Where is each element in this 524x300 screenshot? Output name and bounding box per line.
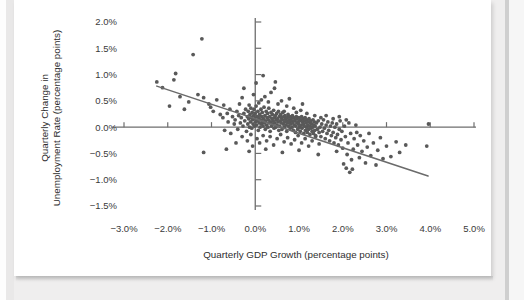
x-tick-label: −1.0% [198,223,226,234]
data-point [155,80,159,84]
data-point [282,109,286,113]
data-point [273,86,277,90]
data-point [209,105,213,109]
data-point [354,123,358,127]
x-tick-label: −3.0% [110,223,138,234]
data-point [266,125,270,129]
data-point [323,137,327,141]
figure-card-shadow [16,276,493,281]
x-axis-title: Quarterly GDP Growth (percentage points) [203,249,389,260]
data-point [252,93,256,97]
data-point [349,132,353,136]
data-point [292,106,296,110]
data-point [365,145,369,149]
y-tick-label: 0.0% [95,122,117,133]
data-point [257,101,261,105]
y-tick-label: 2.0% [95,16,117,27]
data-point [262,105,266,109]
data-point [326,120,330,124]
data-point [280,99,284,103]
data-point [358,134,362,138]
x-tick-label: 3.0% [376,223,398,234]
data-point [350,167,354,171]
data-point [266,100,270,104]
data-point [254,104,258,108]
data-point [225,112,229,116]
data-point [374,163,378,167]
data-point [222,103,226,107]
data-point [313,114,317,118]
data-point [182,107,186,111]
data-point [394,140,398,144]
y-axis-title-line1: Quarterly Change in [39,74,50,162]
data-point [234,141,238,145]
left-margin-strip [0,0,14,300]
data-point [178,95,182,99]
x-tick-label: 4.0% [419,223,441,234]
data-point [224,147,228,151]
y-tick-label: −1.0% [90,174,118,185]
data-point [240,96,244,100]
data-point [339,138,343,142]
x-tick-label: 0.0% [244,223,266,234]
data-point [364,161,368,165]
data-point [371,141,375,145]
x-tick-label: 5.0% [463,223,485,234]
data-point [259,98,263,102]
data-point [307,144,311,148]
data-point [215,98,219,102]
data-point [251,144,255,148]
data-point [294,111,298,115]
data-point [200,37,204,41]
data-point [254,81,258,85]
data-point [265,139,269,143]
data-point [319,135,323,139]
axes-group [112,18,476,210]
data-point [331,131,335,135]
data-point [385,144,389,148]
scatter-plot: −3.0%−2.0%−1.0%0.0%1.0%2.0%3.0%4.0%5.0% … [14,0,491,276]
data-point [360,149,364,153]
data-point [249,133,253,137]
data-point [320,122,324,126]
data-point [202,150,206,154]
data-point [328,139,332,143]
y-tick-label: −0.5% [90,148,118,159]
data-point [223,128,227,132]
chart-canvas: −3.0%−2.0%−1.0%0.0%1.0%2.0%3.0%4.0%5.0% … [14,0,491,276]
data-point [252,107,256,111]
data-point [239,116,243,120]
data-point [293,138,297,142]
data-point [264,147,268,151]
data-point [327,128,331,132]
data-point [297,148,301,152]
data-point [398,150,402,154]
data-point [316,153,320,157]
data-point [280,150,284,154]
data-point [352,137,356,141]
data-point [187,100,191,104]
data-point [174,72,178,76]
data-point [362,139,366,143]
data-point [242,86,246,90]
y-tick-label: 1.5% [95,43,117,54]
data-point [310,139,314,143]
data-point [376,148,380,152]
data-point [335,122,339,126]
data-point [316,119,320,123]
data-point [335,149,339,153]
data-point [296,134,300,138]
data-point [303,137,307,141]
data-point [340,129,344,133]
data-point [287,97,291,101]
data-point [299,108,303,112]
figure-card: −3.0%−2.0%−1.0%0.0%1.0%2.0%3.0%4.0%5.0% … [14,0,491,276]
data-point [272,108,276,112]
data-point [255,137,259,141]
y-tick-label: 1.0% [95,69,117,80]
trendline-group [157,86,428,176]
data-point [324,114,328,118]
data-point [427,122,431,126]
data-point [245,139,249,143]
data-point [276,102,280,106]
